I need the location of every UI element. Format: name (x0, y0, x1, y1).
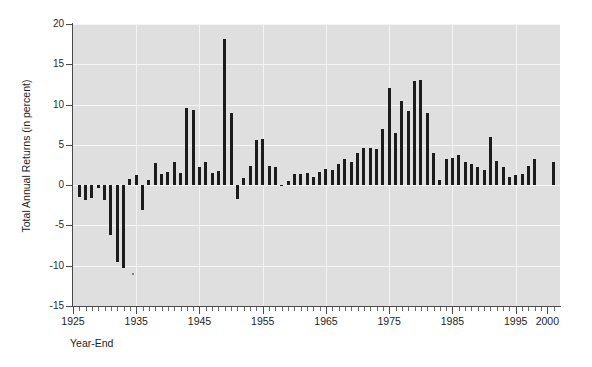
x-tick-mark-minor (415, 307, 416, 311)
x-tick-mark-minor (351, 307, 352, 311)
y-tick-label: 0 (28, 180, 64, 190)
bar (388, 88, 391, 185)
x-tick-mark-minor (459, 307, 460, 311)
y-tick-mark (66, 185, 73, 186)
bar (438, 180, 441, 185)
x-tick-label: 1985 (430, 315, 474, 327)
x-tick-mark-minor (282, 307, 283, 311)
x-axis-line (72, 306, 561, 307)
bar (470, 164, 473, 185)
x-tick-mark-minor (497, 307, 498, 311)
x-tick-mark-minor (168, 307, 169, 311)
x-tick-mark-major (516, 307, 517, 314)
bar (141, 185, 144, 210)
bar (236, 185, 239, 199)
gridline-horizontal (73, 145, 560, 146)
bar (299, 174, 302, 185)
x-tick-mark-minor (124, 307, 125, 311)
bar (350, 162, 353, 185)
x-tick-mark-minor (275, 307, 276, 311)
bar (287, 181, 290, 185)
bar (432, 153, 435, 185)
bar (160, 174, 163, 185)
bar (476, 167, 479, 185)
bar (489, 137, 492, 185)
x-tick-mark-minor (105, 307, 106, 311)
x-tick-label: 1935 (114, 315, 158, 327)
x-tick-mark-minor (554, 307, 555, 311)
x-tick-mark-minor (250, 307, 251, 311)
bar (255, 140, 258, 185)
x-tick-mark-minor (231, 307, 232, 311)
x-tick-mark-minor (256, 307, 257, 311)
gridline-vertical (199, 24, 200, 306)
bar (445, 159, 448, 186)
gridline-horizontal (73, 105, 560, 106)
bar (381, 129, 384, 185)
bar (527, 166, 530, 185)
x-tick-mark-minor (332, 307, 333, 311)
x-tick-mark-minor (294, 307, 295, 311)
x-tick-mark-minor (181, 307, 182, 311)
x-tick-mark-minor (383, 307, 384, 311)
x-tick-mark-minor (307, 307, 308, 311)
bar (230, 113, 233, 185)
x-tick-mark-minor (440, 307, 441, 311)
bar (413, 81, 416, 185)
x-tick-mark-minor (193, 307, 194, 311)
bar (483, 170, 486, 185)
x-tick-mark-minor (174, 307, 175, 311)
y-tick-label: 10 (28, 100, 64, 110)
bar (324, 169, 327, 185)
x-axis-label: Year-End (70, 337, 113, 349)
bar (268, 166, 271, 185)
x-tick-mark-minor (471, 307, 472, 311)
x-tick-mark-minor (402, 307, 403, 311)
bar (78, 185, 81, 197)
x-tick-label: 1965 (304, 315, 348, 327)
bar (147, 180, 150, 185)
bar (135, 175, 138, 185)
bar (521, 174, 524, 185)
x-tick-mark-minor (149, 307, 150, 311)
x-tick-mark-minor (187, 307, 188, 311)
bar (312, 177, 315, 185)
y-tick-label-text: 5 (34, 140, 64, 150)
bar (211, 173, 214, 185)
x-tick-mark-minor (130, 307, 131, 311)
bar (274, 167, 277, 186)
bar (502, 167, 505, 186)
bar (337, 164, 340, 185)
y-tick-label-text: -10 (34, 261, 64, 271)
y-tick-label: -15 (28, 301, 64, 311)
bar (495, 161, 498, 185)
y-tick-label-text: 20 (34, 19, 64, 29)
bar (369, 148, 372, 185)
y-tick-label-text: 10 (34, 100, 64, 110)
x-tick-mark-minor (396, 307, 397, 311)
x-tick-mark-minor (490, 307, 491, 311)
bar (407, 111, 410, 185)
bar (223, 39, 226, 185)
bar (116, 185, 119, 262)
bar (375, 149, 378, 185)
bar (451, 158, 454, 185)
x-tick-mark-major (263, 307, 264, 314)
y-tick-label: 5 (28, 140, 64, 150)
x-tick-mark-minor (313, 307, 314, 311)
bar (356, 153, 359, 185)
x-tick-mark-major (199, 307, 200, 314)
x-tick-label: 1955 (241, 315, 285, 327)
x-tick-mark-minor (465, 307, 466, 311)
y-tick-label-text: 15 (34, 59, 64, 69)
bar (464, 162, 467, 185)
x-tick-mark-major (136, 307, 137, 314)
bar (533, 159, 536, 186)
x-tick-mark-minor (218, 307, 219, 311)
x-tick-mark-minor (288, 307, 289, 311)
bar (394, 133, 397, 185)
y-tick-label-text: -15 (34, 301, 64, 311)
bar (122, 185, 125, 268)
x-tick-mark-major (547, 307, 548, 314)
bar (192, 110, 195, 185)
